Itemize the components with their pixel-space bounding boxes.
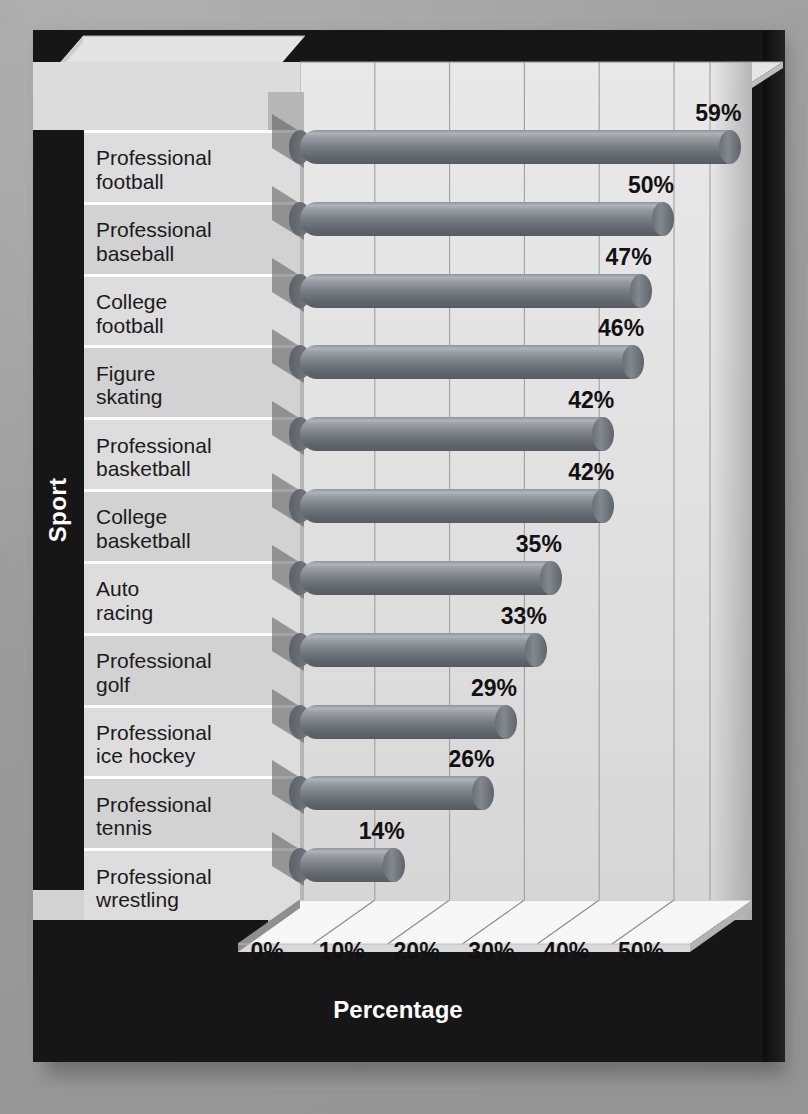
x-axis-title-text: Percentage xyxy=(333,996,462,1024)
bar-value-label: 46% xyxy=(598,315,644,342)
bar xyxy=(300,489,614,523)
x-axis-tick-label: 50% xyxy=(618,938,664,965)
bar-value-label: 47% xyxy=(606,244,652,271)
category-label-line: ice hockey xyxy=(96,744,300,768)
x-axis-tick-label: 0% xyxy=(250,938,283,965)
category-row: Collegebasketball xyxy=(84,489,300,561)
category-row: Professionaltennis xyxy=(84,776,300,848)
y-axis-title: Sport xyxy=(33,130,84,890)
category-row: Professionalice hockey xyxy=(84,705,300,777)
category-row: Professionalgolf xyxy=(84,633,300,705)
category-label-line: golf xyxy=(96,673,300,697)
x-axis-title: Percentage xyxy=(33,988,763,1032)
bar xyxy=(300,705,517,739)
category-label-line: tennis xyxy=(96,816,300,840)
category-label-line: Professional xyxy=(96,218,300,242)
bar xyxy=(300,130,741,164)
bar xyxy=(300,561,562,595)
category-label-line: Professional xyxy=(96,865,300,889)
bar-body xyxy=(300,776,483,810)
bar-value-label: 29% xyxy=(471,675,517,702)
x-axis-tick-label: 40% xyxy=(543,938,589,965)
bar-body xyxy=(300,633,536,667)
bar-value-label: 14% xyxy=(359,818,405,845)
bar-right-cap xyxy=(383,848,405,882)
bar-body xyxy=(300,705,506,739)
bar xyxy=(300,202,674,236)
bar-right-cap xyxy=(472,776,494,810)
x-axis-tick-label: 20% xyxy=(394,938,440,965)
x-axis-tick-labels: 0%10%20%30%40%50% xyxy=(233,938,773,972)
category-label-line: basketball xyxy=(96,457,300,481)
category-label-line: Professional xyxy=(96,793,300,817)
bar-body xyxy=(300,130,730,164)
bar xyxy=(300,274,652,308)
bar-body xyxy=(300,848,394,882)
category-label-line: baseball xyxy=(96,242,300,266)
bar-body xyxy=(300,561,551,595)
bar-value-label: 59% xyxy=(695,100,741,127)
category-row: Professionalbaseball xyxy=(84,202,300,274)
category-row: Professionalfootball xyxy=(84,130,300,202)
bar-value-label: 35% xyxy=(516,531,562,558)
category-label-line: skating xyxy=(96,385,300,409)
x-axis-tick-label: 10% xyxy=(319,938,365,965)
category-label-line: College xyxy=(96,290,300,314)
bar-value-label: 33% xyxy=(501,603,547,630)
y-axis-title-text: Sport xyxy=(45,478,73,543)
category-row: Autoracing xyxy=(84,561,300,633)
bar-right-cap xyxy=(652,202,674,236)
category-row: Professionalbasketball xyxy=(84,417,300,489)
bar-right-cap xyxy=(540,561,562,595)
bar xyxy=(300,417,614,451)
bar-value-label: 26% xyxy=(448,746,494,773)
category-label-line: College xyxy=(96,505,300,529)
category-row: Collegefootball xyxy=(84,274,300,346)
category-row: Figureskating xyxy=(84,345,300,417)
bar-body xyxy=(300,202,663,236)
bar-body xyxy=(300,274,641,308)
category-label-line: Professional xyxy=(96,721,300,745)
category-label-line: Auto xyxy=(96,577,300,601)
category-label-list: ProfessionalfootballProfessionalbaseball… xyxy=(84,130,300,920)
bar-right-cap xyxy=(592,489,614,523)
x-axis-tick-label: 30% xyxy=(468,938,514,965)
category-label-line: football xyxy=(96,170,300,194)
category-label-line: Figure xyxy=(96,362,300,386)
bar xyxy=(300,776,494,810)
bar-right-cap xyxy=(719,130,741,164)
bar-body xyxy=(300,489,603,523)
bar-body xyxy=(300,345,633,379)
bar-right-cap xyxy=(622,345,644,379)
category-label-line: Professional xyxy=(96,649,300,673)
bar-value-label: 42% xyxy=(568,459,614,486)
bar xyxy=(300,848,405,882)
category-label-line: basketball xyxy=(96,529,300,553)
category-label-line: football xyxy=(96,314,300,338)
bar-right-cap xyxy=(525,633,547,667)
bar xyxy=(300,633,547,667)
bar-right-cap xyxy=(495,705,517,739)
bar-value-label: 50% xyxy=(628,172,674,199)
category-label-line: racing xyxy=(96,601,300,625)
category-label-line: Professional xyxy=(96,146,300,170)
bar-value-label: 42% xyxy=(568,387,614,414)
bar-body xyxy=(300,417,603,451)
category-label-line: Professional xyxy=(96,434,300,458)
bar-series: 59%50%47%46%42%42%35%33%29%26%14% xyxy=(300,62,760,920)
bar xyxy=(300,345,644,379)
bar-right-cap xyxy=(592,417,614,451)
bar-right-cap xyxy=(630,274,652,308)
